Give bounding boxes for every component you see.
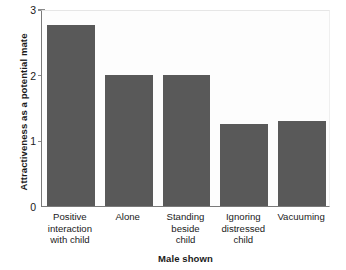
category-label-line: interaction [38, 223, 102, 235]
category-label-line: with child [38, 234, 102, 246]
category-label-line: Alone [96, 211, 160, 223]
bar [220, 124, 268, 206]
y-axis-title: Attractiveness as a potential mate [16, 12, 32, 212]
y-axis-tick-label: 3 [22, 5, 36, 16]
bar [163, 75, 211, 206]
y-axis-tick-label: 0 [22, 202, 36, 213]
category-label-line: Vacuuming [269, 211, 333, 223]
x-axis-category-label: Alone [96, 211, 160, 223]
bar-chart-figure: Attractiveness as a potential mate 0123 … [0, 0, 346, 270]
category-label-line: child [154, 234, 218, 246]
x-axis-category-label: Positiveinteractionwith child [38, 211, 102, 246]
category-label-line: Positive [38, 211, 102, 223]
bar [105, 75, 153, 206]
x-axis-category-label: Ignoringdistressedchild [211, 211, 275, 246]
category-label-line: Ignoring [211, 211, 275, 223]
x-axis-category-label: Vacuuming [269, 211, 333, 223]
category-label-line: distressed [211, 223, 275, 235]
plot-area [41, 10, 330, 207]
x-axis-category-label: Standingbesidechild [154, 211, 218, 246]
category-label-line: child [211, 234, 275, 246]
bar [47, 25, 95, 206]
x-axis-title: Male shown [41, 253, 330, 264]
bar [278, 121, 326, 206]
y-axis-tick-label: 1 [22, 136, 36, 147]
category-label-line: beside [154, 223, 218, 235]
category-label-line: Standing [154, 211, 218, 223]
y-axis-tick-label: 2 [22, 71, 36, 82]
